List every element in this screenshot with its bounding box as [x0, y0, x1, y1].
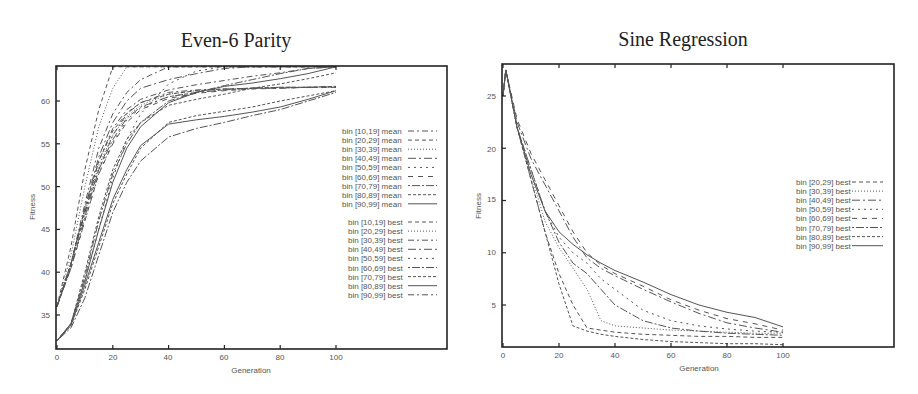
y-tick-label: 45 [41, 225, 50, 234]
x-tick-label: 40 [611, 351, 620, 360]
x-axis-ticks: 0 20 40 60 80 100 [55, 353, 343, 362]
legend-label: bin [40,49] mean [342, 154, 402, 163]
x-tick-label: 60 [667, 351, 676, 360]
series-line [57, 67, 336, 341]
y-tick-label: 50 [41, 183, 50, 192]
legend-label: bin [10,19] best [348, 218, 403, 227]
figure: Even-6 Parity 35 40 45 50 55 60 0 20 40 … [0, 0, 918, 394]
x-axis-label: Generation [679, 364, 719, 373]
y-tick-label: 20 [487, 145, 496, 154]
legend-label: bin [60,69] best [796, 214, 851, 223]
y-tick-label: 15 [487, 195, 496, 204]
legend-label: bin [80,89] best [348, 282, 403, 291]
x-tick-label: 80 [723, 351, 732, 360]
legend-label: bin [10,19] mean [342, 127, 402, 136]
series-line [57, 67, 336, 341]
legend-label: bin [50,59] best [348, 254, 403, 263]
x-tick-label: 60 [220, 353, 229, 362]
series-line [503, 70, 783, 345]
legend-label: bin [90,99] best [796, 242, 851, 251]
series-line [503, 70, 783, 330]
y-tick-label: 35 [41, 311, 50, 320]
y-tick-label: 5 [492, 301, 497, 310]
legend-label: bin [20,29] best [348, 227, 403, 236]
series-line [503, 70, 783, 332]
x-tick-label: 100 [776, 351, 790, 360]
x-tick-label: 20 [109, 353, 118, 362]
legend-label: bin [90,99] best [348, 291, 403, 300]
y-axis-label: Fitness [474, 193, 483, 219]
series-line [503, 70, 783, 333]
legend-label: bin [30,39] best [796, 187, 851, 196]
legend-label: bin [70,79] best [796, 224, 851, 233]
legend-label: bin [20,29] best [796, 178, 851, 187]
series-line [57, 73, 336, 341]
legend-label: bin [50,59] mean [342, 163, 402, 172]
legend-label: bin [80,89] best [796, 233, 851, 242]
x-axis-ticks: 0 20 40 60 80 100 [501, 351, 790, 360]
y-tick-label: 60 [41, 97, 50, 106]
chart-title: Even-6 Parity [181, 29, 292, 52]
legend: bin [10,19] meanbin [20,29] meanbin [30,… [342, 127, 437, 300]
y-tick-label: 55 [41, 140, 50, 149]
x-tick-label: 20 [555, 351, 564, 360]
y-tick-label: 25 [487, 92, 496, 101]
x-tick-label: 0 [501, 351, 506, 360]
y-axis-ticks: 5 10 15 20 25 [487, 92, 496, 310]
y-axis-label: Fitness [28, 194, 37, 220]
x-tick-label: 0 [55, 353, 60, 362]
series-line [503, 70, 783, 335]
legend-label: bin [60,69] best [348, 264, 403, 273]
x-tick-label: 100 [329, 353, 343, 362]
chart-sine-regression: Sine Regression 5 10 15 20 25 0 20 40 60… [474, 28, 894, 373]
legend-label: bin [80,89] mean [342, 191, 402, 200]
legend-label: bin [70,79] mean [342, 182, 402, 191]
legend-label: bin [20,29] mean [342, 136, 402, 145]
y-tick-label: 40 [41, 268, 50, 277]
legend-label: bin [50,59] best [796, 205, 851, 214]
x-tick-label: 80 [276, 353, 285, 362]
legend: bin [20,29] bestbin [30,39] bestbin [40,… [796, 178, 883, 251]
legend-label: bin [40,49] best [348, 245, 403, 254]
legend-label: bin [90,99] mean [342, 200, 402, 209]
legend-label: bin [60,69] mean [342, 173, 402, 182]
legend-label: bin [40,49] best [796, 196, 851, 205]
series-line [503, 70, 783, 327]
chart-even6-parity: Even-6 Parity 35 40 45 50 55 60 0 20 40 … [28, 29, 447, 375]
y-tick-label: 10 [487, 248, 496, 257]
series-line [57, 67, 336, 341]
plot-lines [56, 66, 336, 349]
legend-label: bin [70,79] best [348, 273, 403, 282]
chart-title: Sine Regression [618, 28, 747, 51]
x-tick-label: 40 [164, 353, 173, 362]
x-axis-label: Generation [231, 366, 271, 375]
plot-lines [502, 64, 783, 347]
legend-label: bin [30,39] best [348, 236, 403, 245]
series-line [503, 70, 783, 332]
series-line [503, 70, 783, 338]
y-axis-ticks: 35 40 45 50 55 60 [41, 97, 50, 320]
legend-label: bin [30,39] mean [342, 145, 402, 154]
